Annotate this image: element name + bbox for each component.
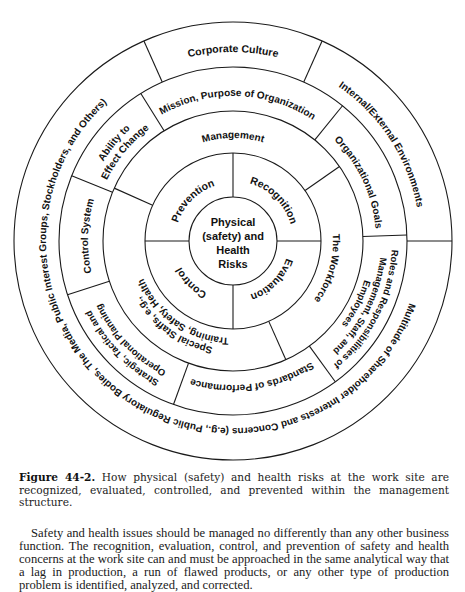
management-structure-diagram: Physical (safety) and Health Risks Preve…	[0, 0, 465, 470]
center-label: Physical (safety) and Health Risks	[202, 216, 264, 270]
center-label-line1: Physical	[211, 216, 256, 228]
center-label-line2: (safety) and	[202, 230, 264, 242]
label-evaluation: Evaluation	[249, 257, 295, 303]
label-recognition: Recognition	[249, 174, 300, 225]
label-management: Management	[200, 129, 266, 145]
label-control: Control	[172, 266, 208, 302]
figure-label: Figure 44-2.	[19, 471, 95, 483]
segment-divider	[305, 166, 339, 190]
segment-divider	[315, 106, 343, 140]
label-control-system: Control System	[79, 197, 96, 274]
segment-divider	[114, 188, 152, 205]
center-label-line4: Risks	[218, 258, 247, 270]
segment-divider	[309, 346, 335, 382]
body-text: Safety and health issues should be manag…	[19, 527, 449, 592]
label-prevention: Prevention	[168, 176, 215, 223]
segment-divider	[304, 41, 322, 82]
figure-caption: Figure 44-2. How physical (safety) and h…	[19, 471, 449, 509]
segment-divider	[68, 281, 110, 295]
label-standards: Standards of Performance	[188, 360, 316, 394]
segment-divider	[144, 41, 162, 82]
segment-divider	[173, 363, 188, 404]
label-corporate-culture: Corporate Culture	[186, 42, 280, 59]
label-mission: Mission, Purpose of Organization	[157, 87, 317, 122]
label-org-goals: Organizational Goals	[333, 134, 385, 230]
segment-divider	[363, 235, 407, 237]
segment-divider	[269, 321, 286, 359]
label-internal-external: Internal/External Environments	[337, 79, 426, 208]
center-label-line3: Health	[216, 244, 250, 256]
body-paragraph: Safety and health issues should be manag…	[19, 527, 449, 592]
